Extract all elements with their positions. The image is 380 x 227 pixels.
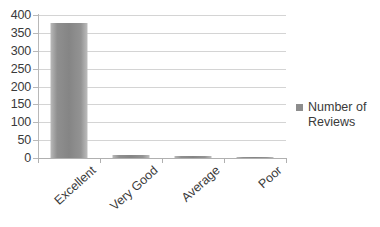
- y-axis-label-400: 400: [1, 9, 31, 22]
- y-axis-label-0: 0: [1, 152, 31, 165]
- y-tick-250: [33, 69, 38, 70]
- y-axis-label-150: 150: [1, 98, 31, 111]
- bar-slot-excellent: [38, 15, 100, 158]
- y-axis-line: [38, 14, 39, 159]
- x-tick-0: [38, 158, 39, 163]
- x-tick-4: [286, 158, 287, 163]
- y-tick-200: [33, 87, 38, 88]
- bar-excellent[interactable]: [51, 23, 88, 158]
- y-axis-label-50: 50: [1, 134, 31, 147]
- x-tick-1: [100, 158, 101, 163]
- y-tick-50: [33, 140, 38, 141]
- bar-slot-average: [162, 15, 224, 158]
- y-axis-label-100: 100: [1, 116, 31, 129]
- y-axis-label-300: 300: [1, 45, 31, 58]
- y-axis-label-350: 350: [1, 27, 31, 40]
- y-tick-100: [33, 122, 38, 123]
- y-axis-label-200: 200: [1, 81, 31, 94]
- x-tick-3: [224, 158, 225, 163]
- x-tick-2: [162, 158, 163, 163]
- bar-slot-very-good: [100, 15, 162, 158]
- bar-slot-poor: [224, 15, 286, 158]
- y-tick-400: [33, 15, 38, 16]
- legend-entry-line2: Reviews: [308, 115, 380, 130]
- y-axis-label-250: 250: [1, 63, 31, 76]
- bars-layer: [38, 15, 286, 158]
- y-axis-labels: 400 350 300 250 200 150 100 50 0: [0, 0, 31, 227]
- bar-chart: 400 350 300 250 200 150 100 50 0 Excelle…: [0, 0, 380, 227]
- y-tick-350: [33, 33, 38, 34]
- legend-color-swatch-icon: [296, 104, 303, 111]
- y-tick-150: [33, 104, 38, 105]
- legend-entry-line1: Number of: [308, 100, 366, 114]
- y-tick-300: [33, 51, 38, 52]
- legend-entry-number-of-reviews: Number of Reviews: [308, 100, 380, 130]
